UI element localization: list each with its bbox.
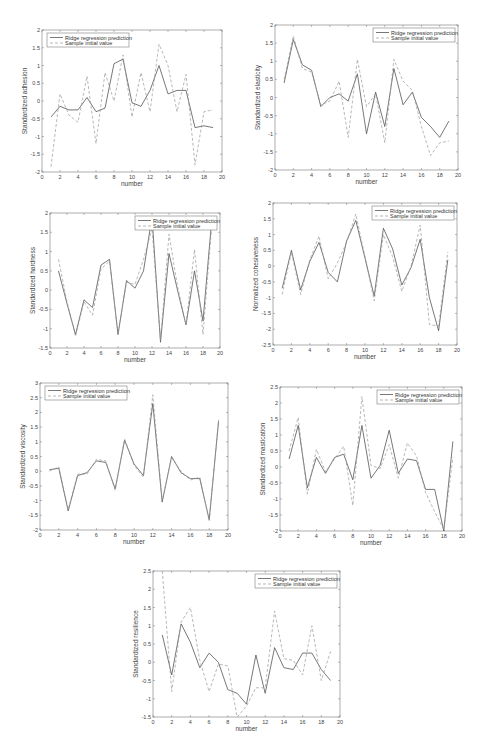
plot-area — [153, 571, 340, 717]
y-tick-label: 1.5 — [32, 45, 40, 51]
y-axis-label: Standardized hardness — [29, 246, 36, 314]
x-tick-label: 14 — [400, 172, 406, 178]
y-tick-label: 0.5 — [32, 80, 40, 86]
x-tick-label: 8 — [226, 719, 229, 725]
x-tick-label: 8 — [345, 347, 348, 353]
x-tick-label: 4 — [76, 174, 79, 180]
legend: Ridge regression predictionSample initia… — [255, 574, 340, 588]
x-tick-label: 6 — [333, 533, 336, 539]
y-tick-label: -1.5 — [264, 149, 273, 155]
x-tick-label: 6 — [94, 174, 97, 180]
legend-label-sample: Sample initial value — [153, 223, 200, 229]
x-tick-label: 20 — [225, 532, 231, 538]
y-tick-label: -0.5 — [269, 480, 278, 486]
chart-viscosity: 02468101214161820-2-1.5-1-0.500.511.522.… — [19, 380, 231, 545]
x-tick-label: 12 — [149, 350, 155, 356]
x-tick-label: 2 — [65, 350, 68, 356]
x-tick-label: 20 — [454, 347, 460, 353]
x-tick-label: 6 — [327, 347, 330, 353]
y-tick-label: -1 — [266, 295, 271, 301]
legend-label-sample: Sample initial value — [395, 397, 442, 403]
x-tick-label: 14 — [169, 532, 175, 538]
x-tick-label: 6 — [328, 172, 331, 178]
x-tick-label: 4 — [82, 350, 85, 356]
x-axis-label: number — [355, 178, 378, 185]
y-tick-label: 2 — [270, 22, 273, 28]
chart-cohesiveness: 02468101214161820-2.5-2-1.5-1-0.500.511.… — [252, 200, 460, 360]
x-tick-label: 2 — [297, 533, 300, 539]
plot-area — [275, 25, 458, 170]
y-axis-label: Standardized mastication — [259, 422, 266, 495]
x-tick-label: 8 — [347, 172, 350, 178]
y-tick-label: 0 — [45, 287, 48, 293]
y-tick-label: 2 — [35, 409, 38, 415]
y-tick-label: 1 — [35, 439, 38, 445]
y-tick-label: 1.5 — [265, 40, 273, 46]
x-tick-label: 0 — [273, 172, 276, 178]
x-tick-label: 12 — [147, 174, 153, 180]
x-tick-label: 4 — [308, 347, 311, 353]
y-tick-label: -2 — [266, 326, 271, 332]
x-axis-label: number — [124, 356, 147, 363]
x-axis-label: number — [354, 353, 377, 360]
y-tick-label: 1 — [268, 232, 271, 238]
y-tick-label: 1 — [37, 63, 40, 69]
x-tick-label: 16 — [417, 347, 423, 353]
y-tick-label: -0.5 — [29, 483, 38, 489]
y-axis-label: Standardized adhesion — [21, 67, 28, 134]
y-tick-label: -0.5 — [264, 113, 273, 119]
y-tick-label: -1 — [146, 696, 151, 702]
x-tick-label: 12 — [382, 172, 388, 178]
x-tick-label: 12 — [150, 532, 156, 538]
x-axis-label: number — [360, 539, 383, 546]
x-tick-label: 18 — [200, 350, 206, 356]
y-tick-label: -1.5 — [142, 714, 151, 720]
x-tick-label: 6 — [95, 532, 98, 538]
y-tick-label: 0.5 — [40, 268, 48, 274]
y-tick-label: -2 — [33, 527, 38, 533]
x-tick-label: 0 — [151, 719, 154, 725]
y-tick-label: 0 — [275, 464, 278, 470]
y-tick-label: -1 — [273, 496, 278, 502]
y-axis-label: Standardized elasticity — [254, 64, 262, 130]
x-tick-label: 14 — [165, 174, 171, 180]
y-tick-label: -1 — [35, 134, 40, 140]
legend: Ridge regression predictionSample initia… — [372, 206, 457, 220]
x-tick-label: 14 — [404, 533, 410, 539]
y-tick-label: 2 — [268, 200, 271, 206]
x-tick-label: 16 — [300, 719, 306, 725]
x-tick-label: 20 — [217, 350, 223, 356]
y-tick-label: 2 — [275, 400, 278, 406]
y-tick-label: 3 — [35, 380, 38, 386]
y-tick-label: 0.5 — [263, 247, 271, 253]
y-tick-label: 1.5 — [270, 416, 278, 422]
y-tick-label: 2.5 — [143, 568, 151, 574]
x-tick-label: 0 — [38, 532, 41, 538]
x-tick-label: 8 — [114, 532, 117, 538]
x-axis-label: number — [235, 725, 258, 732]
y-tick-label: 0 — [270, 95, 273, 101]
plot-area — [280, 387, 462, 531]
x-axis-label: number — [123, 538, 146, 545]
figure-grid: 02468101214161820-2-1.5-1-0.500.511.52nu… — [0, 0, 486, 754]
x-tick-label: 16 — [423, 533, 429, 539]
y-tick-label: 1.5 — [40, 229, 48, 235]
x-tick-label: 18 — [436, 347, 442, 353]
x-tick-label: 14 — [166, 350, 172, 356]
x-tick-label: 0 — [278, 533, 281, 539]
y-tick-label: 0 — [37, 98, 40, 104]
x-tick-label: 20 — [219, 174, 225, 180]
x-tick-label: 18 — [206, 532, 212, 538]
x-tick-label: 18 — [441, 533, 447, 539]
y-tick-label: -1.5 — [39, 345, 48, 351]
y-axis-label: Normalized cohesiveness — [252, 236, 259, 311]
chart-elasticity: 02468101214161820-2-1.5-1-0.500.511.52nu… — [254, 22, 461, 185]
y-tick-label: -0.5 — [142, 678, 151, 684]
y-tick-label: 0 — [268, 263, 271, 269]
y-axis-label: Standardized resilience — [132, 610, 139, 678]
y-tick-label: -0.5 — [39, 306, 48, 312]
y-tick-label: 1.5 — [263, 216, 271, 222]
y-tick-label: 2 — [37, 27, 40, 33]
plot-area — [50, 213, 220, 348]
y-tick-label: 1 — [148, 623, 151, 629]
